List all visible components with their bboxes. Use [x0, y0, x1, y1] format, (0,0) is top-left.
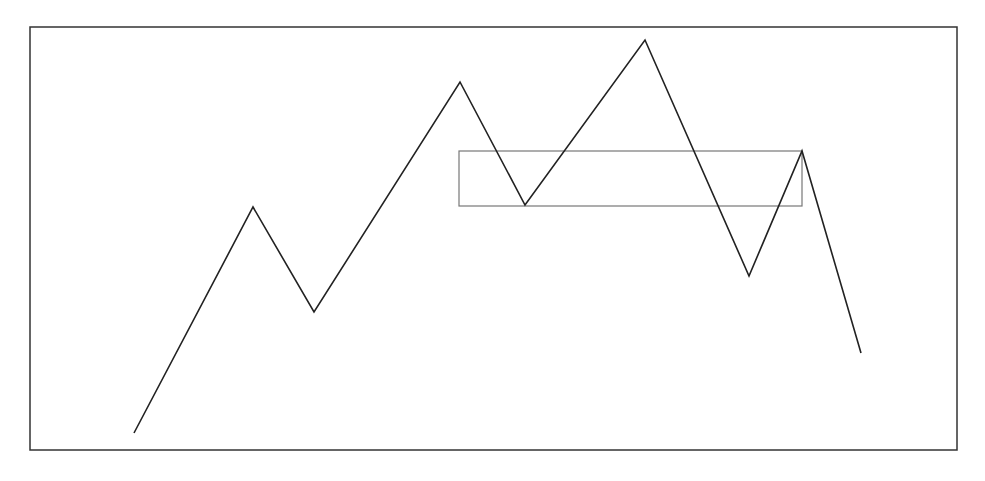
zigzag-diagram: [0, 0, 985, 481]
diagram-frame: [30, 27, 957, 450]
zigzag-line: [134, 40, 861, 433]
